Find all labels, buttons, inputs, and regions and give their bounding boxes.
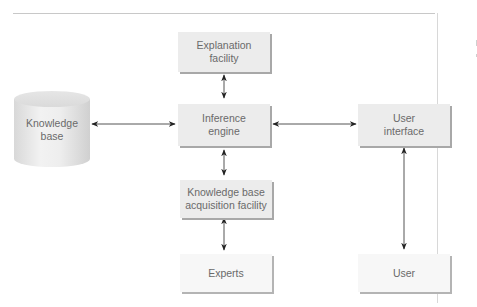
inference-engine-line1: Inference bbox=[202, 112, 246, 125]
kb-acquisition-line1: Knowledge base bbox=[185, 186, 267, 199]
experts-box: Experts bbox=[180, 254, 272, 292]
user-interface-line1: User bbox=[384, 112, 424, 125]
user-interface-box: User interface bbox=[358, 104, 450, 146]
inference-engine-line2: engine bbox=[202, 125, 246, 138]
explanation-facility-line1: Explanation bbox=[197, 39, 252, 52]
kb-acquisition-line2: acquisition facility bbox=[185, 199, 267, 212]
knowledge-base-cylinder: Knowledge base bbox=[14, 91, 90, 167]
kb-acquisition-facility-box: Knowledge base acquisition facility bbox=[180, 180, 272, 218]
explanation-facility-box: Explanation facility bbox=[178, 32, 270, 72]
user-box: User bbox=[358, 254, 450, 292]
inference-engine-box: Inference engine bbox=[178, 104, 270, 146]
knowledge-base-line1: Knowledge bbox=[14, 117, 90, 130]
explanation-facility-line2: facility bbox=[197, 52, 252, 65]
experts-label: Experts bbox=[208, 267, 244, 280]
knowledge-base-line2: base bbox=[14, 130, 90, 143]
user-label: User bbox=[393, 267, 415, 280]
user-interface-line2: interface bbox=[384, 125, 424, 138]
